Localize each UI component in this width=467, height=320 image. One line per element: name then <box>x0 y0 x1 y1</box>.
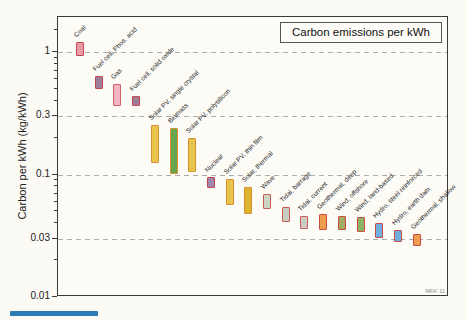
range-bar-wave <box>263 194 271 210</box>
bar-label-text: Wave <box>259 173 276 190</box>
range-bar-fuel-cell-phos-acid <box>95 76 103 89</box>
range-bar-solar-thermal <box>244 187 252 214</box>
bar-label-text: Fuel cell, Phos. acid <box>91 25 138 72</box>
range-bar-tidal-current <box>300 216 308 229</box>
page-accent-bar <box>10 311 98 316</box>
range-bar-wind-offshore <box>338 216 346 231</box>
range-bar-geothermal-deep <box>319 214 327 231</box>
range-bar-biomass <box>170 128 178 175</box>
gridline <box>58 116 447 117</box>
range-bar-hydro-steel-reinforced <box>375 223 383 238</box>
range-bar-tidal-barrage <box>282 207 290 222</box>
range-bar-solar-pv-thin-film <box>226 179 234 205</box>
bar-label-text: Solar PV, polysilicon <box>185 87 233 135</box>
bar-label-text: Gas <box>110 67 124 81</box>
range-bar-solar-pv-single-crystal <box>151 125 159 163</box>
range-bar-nuclear <box>207 177 215 189</box>
y-tick-label: 0.3 <box>16 110 50 120</box>
chart-title: Carbon emissions per kWh <box>292 26 430 38</box>
y-major-tick <box>52 296 57 297</box>
plot-area: CoalFuel cell, Phos. acidGasFuel cell, s… <box>57 16 448 296</box>
chart-title-box: Carbon emissions per kWh <box>280 22 442 43</box>
credit-text: MFA' 11 <box>425 288 445 294</box>
y-tick-label: 0.1 <box>16 169 50 179</box>
y-tick-label: 1 <box>16 46 50 56</box>
bar-label-text: Coal <box>72 24 87 39</box>
range-bar-geothermal-shallow <box>413 234 421 247</box>
range-bar-gas <box>113 84 121 107</box>
y-tick-label: 0.03 <box>16 233 50 243</box>
range-bar-coal <box>76 42 84 56</box>
gridline <box>58 239 447 240</box>
range-bar-solar-pv-polysilicon <box>188 138 196 172</box>
carbon-emissions-figure: Carbon per kWh (kg/kWh) 10.30.10.030.01 … <box>0 0 467 320</box>
range-bar-wind-land-based <box>357 217 365 232</box>
y-tick-label: 0.01 <box>16 291 50 301</box>
range-bar-fuel-cell-solid-oxide <box>132 96 140 107</box>
range-bar-hydro-earth-dam <box>394 230 402 242</box>
